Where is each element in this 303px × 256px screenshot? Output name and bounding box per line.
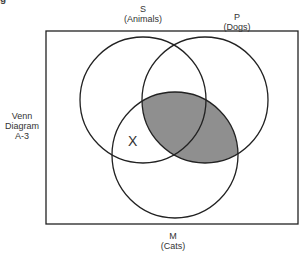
side-label-line-1: Venn <box>2 111 42 121</box>
side-label-line-2: Diagram <box>2 121 42 131</box>
side-label: Venn Diagram A-3 <box>2 111 42 141</box>
label-p-letter: P <box>212 12 262 22</box>
label-s-term: (Animals) <box>118 14 168 24</box>
side-label-line-3: A-3 <box>2 131 42 141</box>
label-m: M (Cats) <box>148 231 198 251</box>
label-m-term: (Cats) <box>148 241 198 251</box>
label-p-term: (Dogs) <box>212 22 262 32</box>
label-s-letter: S <box>118 4 168 14</box>
venn-diagram <box>0 0 303 256</box>
x-mark: X <box>128 134 137 148</box>
label-p: P (Dogs) <box>212 12 262 32</box>
label-s: S (Animals) <box>118 4 168 24</box>
label-m-letter: M <box>148 231 198 241</box>
